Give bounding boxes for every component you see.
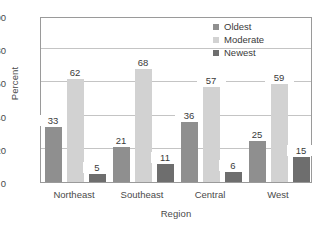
bar bbox=[67, 79, 84, 182]
x-axis-tick-label: West bbox=[244, 189, 312, 200]
y-axis-title: Percent bbox=[9, 54, 20, 114]
bar-value-label: 6 bbox=[219, 160, 248, 171]
gridline bbox=[41, 48, 311, 49]
y-axis-tick-label: 100 bbox=[0, 12, 6, 23]
legend-item-newest: Newest bbox=[213, 47, 264, 58]
bar-value-label: 68 bbox=[129, 57, 158, 68]
y-axis-tick-label: 0 bbox=[0, 178, 6, 189]
bar bbox=[157, 164, 174, 182]
bar-value-label: 59 bbox=[265, 72, 294, 83]
y-axis-tick-label: 40 bbox=[0, 111, 6, 122]
legend-label-newest: Newest bbox=[224, 47, 256, 58]
bar-value-label: 21 bbox=[107, 135, 136, 146]
x-axis-tick-label: Southeast bbox=[108, 189, 176, 200]
x-axis-tick-label: Central bbox=[176, 189, 244, 200]
plot-area: 3362521681136576255915 bbox=[40, 17, 312, 183]
x-axis-title: Region bbox=[40, 208, 312, 219]
bar-value-label: 33 bbox=[39, 115, 68, 126]
bar-value-label: 62 bbox=[61, 67, 90, 78]
bar bbox=[271, 84, 288, 182]
bar bbox=[113, 147, 130, 182]
bar-value-label: 5 bbox=[83, 162, 112, 173]
bar-value-label: 15 bbox=[287, 145, 316, 156]
bar bbox=[181, 122, 198, 182]
bar-value-label: 36 bbox=[175, 110, 204, 121]
legend-swatch-moderate-icon bbox=[213, 37, 219, 43]
bar bbox=[135, 69, 152, 182]
bar bbox=[203, 87, 220, 182]
bar bbox=[89, 174, 106, 182]
bar bbox=[249, 141, 266, 183]
bar-value-label: 25 bbox=[243, 129, 272, 140]
legend-swatch-newest-icon bbox=[213, 50, 219, 56]
legend-swatch-oldest-icon bbox=[213, 24, 219, 30]
bar bbox=[225, 172, 242, 182]
bar-value-label: 11 bbox=[151, 152, 180, 163]
bar bbox=[293, 157, 310, 182]
y-axis-tick-label: 60 bbox=[0, 78, 6, 89]
y-axis-tick-label: 80 bbox=[0, 45, 6, 56]
legend: Oldest Moderate Newest bbox=[213, 21, 264, 60]
legend-item-oldest: Oldest bbox=[213, 21, 264, 32]
legend-label-oldest: Oldest bbox=[224, 21, 251, 32]
y-axis-tick-label: 20 bbox=[0, 144, 6, 155]
legend-label-moderate: Moderate bbox=[224, 34, 264, 45]
legend-item-moderate: Moderate bbox=[213, 34, 264, 45]
bar-chart: Percent Region 020406080100 336252168113… bbox=[0, 0, 324, 229]
bar-value-label: 57 bbox=[197, 75, 226, 86]
bar bbox=[45, 127, 62, 182]
x-axis-tick-label: Northeast bbox=[40, 189, 108, 200]
